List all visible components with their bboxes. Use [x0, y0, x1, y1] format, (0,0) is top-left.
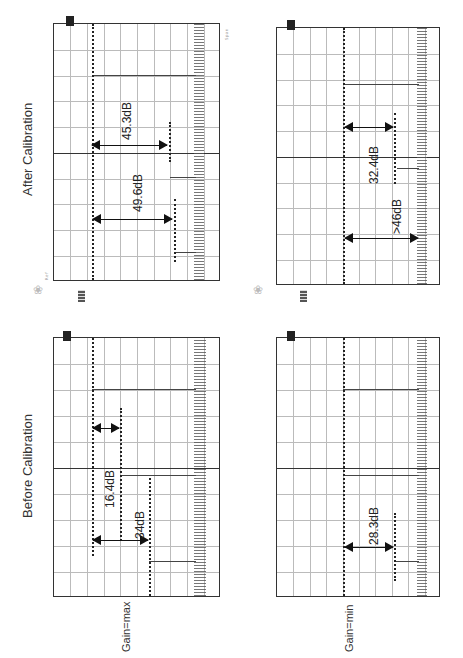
- status-block-icon: [78, 290, 85, 302]
- logo-icon: ❀: [33, 283, 43, 297]
- instrument-readout: Ref: [44, 271, 49, 280]
- title-before-calibration: Before Calibration: [20, 414, 35, 518]
- noise-floor-trace: [194, 24, 204, 280]
- noise-floor-trace: [194, 338, 206, 596]
- annotation-gt-46db: >46dB: [390, 199, 404, 234]
- arrow-16-4db: [93, 428, 119, 429]
- annotation-49-6db: 49.6dB: [131, 174, 145, 212]
- title-after-calibration: After Calibration: [20, 103, 35, 196]
- arrow-28-3db: [345, 547, 393, 548]
- label-gain-max: Gain=max: [120, 602, 132, 652]
- annotation-34db: 34dB: [133, 511, 147, 539]
- marker-flag: [287, 20, 295, 30]
- annotation-32-4db: 32.4dB: [367, 146, 381, 184]
- plot-after-gain-min: [276, 27, 440, 285]
- marker-flag: [287, 331, 295, 341]
- arrow-49-6db: [93, 219, 172, 220]
- marker-flag: [66, 16, 74, 26]
- instrument-readout: Span: [224, 28, 229, 40]
- plot-before-gain-min: [276, 337, 440, 597]
- arrow-32-4db: [345, 127, 393, 128]
- plot-before-gain-max: [53, 337, 220, 597]
- label-gain-min: Gain=min: [343, 605, 355, 652]
- noise-floor-trace: [417, 338, 427, 596]
- noise-floor-trace: [417, 28, 427, 284]
- arrow-gt-46db: [345, 238, 418, 239]
- status-block-icon: [300, 290, 307, 302]
- annotation-28-3db: 28.3dB: [367, 507, 381, 545]
- annotation-16-4db: 16.4dB: [103, 470, 117, 508]
- plot-after-gain-max: [53, 23, 220, 281]
- logo-icon: ❀: [253, 283, 263, 297]
- marker-flag: [63, 331, 71, 341]
- annotation-45-3db: 45.3dB: [120, 102, 134, 140]
- arrow-34db: [93, 540, 148, 541]
- arrow-45-3db: [92, 145, 167, 146]
